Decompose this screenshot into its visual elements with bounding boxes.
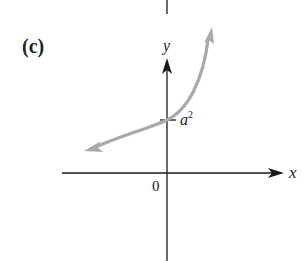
panel-label: (c) (22, 36, 44, 56)
x-axis-label: x (289, 164, 297, 181)
y-intercept-label: a2 (180, 110, 193, 128)
y-intercept-exponent: 2 (188, 109, 193, 120)
diagram-canvas (0, 0, 302, 261)
y-intercept-base: a (180, 111, 188, 128)
origin-label: 0 (152, 179, 160, 194)
exponential-curve (96, 40, 208, 147)
y-axis-label: y (163, 38, 170, 54)
